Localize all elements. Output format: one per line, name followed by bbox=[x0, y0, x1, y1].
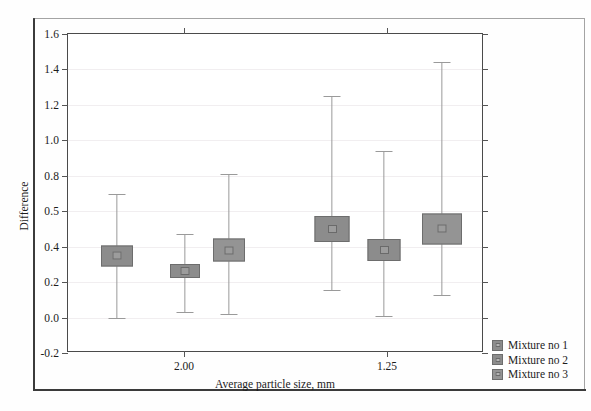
page-border-right bbox=[584, 18, 585, 389]
y-axis-tick bbox=[62, 247, 68, 248]
y-axis-tick-right bbox=[482, 140, 488, 141]
legend-label: Mixture no 1 bbox=[508, 338, 568, 353]
y-axis-tick-right bbox=[482, 247, 488, 248]
gridline bbox=[68, 282, 482, 283]
y-axis-tick-label: 0.0 bbox=[44, 312, 59, 324]
mean-box bbox=[422, 213, 462, 244]
mean-box bbox=[213, 239, 245, 262]
y-axis-tick-label: 0.8 bbox=[44, 170, 59, 182]
whisker-cap-upper bbox=[109, 194, 126, 195]
whisker-cap-lower bbox=[109, 318, 126, 319]
mean-marker-pip bbox=[181, 267, 190, 275]
whisker-cap-lower bbox=[324, 290, 341, 291]
plot-area: 1.61.41.21.00.80.50.40.20.0-0.2 2.001.25 bbox=[67, 33, 483, 352]
y-axis-title: Difference bbox=[18, 181, 30, 230]
y-axis-tick-label: 0.5 bbox=[44, 205, 59, 217]
gridline bbox=[68, 140, 482, 141]
whisker-cap-upper bbox=[376, 151, 393, 152]
y-axis-tick-label: 0.2 bbox=[44, 276, 59, 288]
mean-marker-pip bbox=[328, 225, 337, 233]
mean-box bbox=[170, 264, 200, 278]
whisker-cap-upper bbox=[177, 234, 194, 235]
y-axis-tick-right bbox=[482, 353, 488, 354]
y-axis-tick-right bbox=[482, 282, 488, 283]
legend-swatch bbox=[492, 369, 503, 380]
x-axis-tick-top bbox=[184, 28, 185, 34]
gridline bbox=[68, 105, 482, 106]
gridline bbox=[68, 318, 482, 319]
whisker-cap-upper bbox=[324, 96, 341, 97]
x-axis-title: Average particle size, mm bbox=[67, 378, 483, 390]
legend-item: Mixture no 1 bbox=[492, 338, 568, 353]
whisker-cap-upper bbox=[221, 174, 238, 175]
mean-marker-pip bbox=[438, 225, 447, 233]
whisker-line bbox=[331, 96, 332, 290]
y-axis-tick-label: -0.2 bbox=[40, 347, 59, 359]
y-axis-tick bbox=[62, 69, 68, 70]
y-axis-tick-right bbox=[482, 34, 488, 35]
y-axis-tick bbox=[62, 176, 68, 177]
gridline bbox=[68, 69, 482, 70]
y-axis-tick-label: 1.4 bbox=[44, 63, 59, 75]
y-axis-tick bbox=[62, 318, 68, 319]
whisker-line bbox=[441, 62, 442, 294]
y-axis-tick bbox=[62, 353, 68, 354]
legend-item: Mixture no 2 bbox=[492, 353, 568, 368]
mean-box bbox=[101, 245, 133, 266]
mean-marker-pip bbox=[113, 252, 122, 260]
y-axis-tick-right bbox=[482, 69, 488, 70]
y-axis-tick-right bbox=[482, 318, 488, 319]
y-axis-tick-right bbox=[482, 176, 488, 177]
legend-swatch bbox=[492, 354, 503, 365]
x-axis-tick bbox=[387, 351, 388, 357]
mean-box bbox=[368, 239, 401, 261]
mean-marker-pip bbox=[380, 246, 389, 254]
x-axis-tick-label: 1.25 bbox=[377, 360, 397, 372]
y-axis-tick-label: 1.0 bbox=[44, 134, 59, 146]
y-axis-tick-right bbox=[482, 211, 488, 212]
gridline bbox=[68, 211, 482, 212]
mean-box bbox=[315, 216, 350, 242]
mean-marker-pip bbox=[225, 246, 234, 254]
legend-swatch bbox=[492, 340, 503, 351]
y-axis-tick bbox=[62, 34, 68, 35]
whisker-cap-lower bbox=[434, 295, 451, 296]
y-axis-tick-label: 0.4 bbox=[44, 241, 59, 253]
y-axis-tick bbox=[62, 211, 68, 212]
x-axis-tick bbox=[184, 351, 185, 357]
y-axis-tick bbox=[62, 282, 68, 283]
whisker-cap-lower bbox=[376, 316, 393, 317]
x-axis-tick-label: 2.00 bbox=[174, 360, 194, 372]
whisker-cap-upper bbox=[434, 62, 451, 63]
legend-label: Mixture no 3 bbox=[508, 367, 568, 382]
y-axis-tick bbox=[62, 140, 68, 141]
y-axis-tick-label: 1.6 bbox=[44, 28, 59, 40]
gridline bbox=[68, 176, 482, 177]
legend-item: Mixture no 3 bbox=[492, 367, 568, 382]
page-border-top bbox=[33, 18, 584, 19]
y-axis-tick bbox=[62, 105, 68, 106]
y-axis-tick-label: 1.2 bbox=[44, 99, 59, 111]
x-axis-tick-top bbox=[387, 28, 388, 34]
legend-label: Mixture no 2 bbox=[508, 353, 568, 368]
figure-canvas: Difference 1.61.41.21.00.80.50.40.20.0-0… bbox=[0, 0, 591, 411]
y-axis-tick-right bbox=[482, 105, 488, 106]
legend: Mixture no 1Mixture no 2Mixture no 3 bbox=[492, 338, 568, 382]
whisker-line bbox=[383, 151, 384, 316]
whisker-cap-lower bbox=[177, 312, 194, 313]
whisker-cap-lower bbox=[221, 314, 238, 315]
